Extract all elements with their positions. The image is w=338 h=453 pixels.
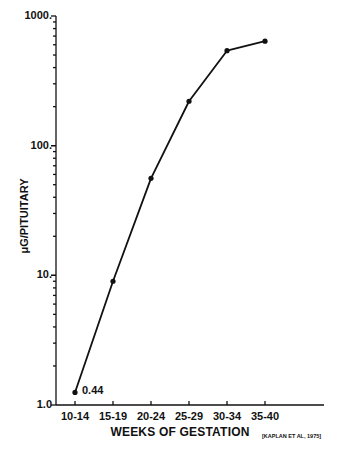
- x-tick-label-35-40: 35-40: [245, 410, 285, 422]
- x-tick-label-25-29: 25-29: [169, 410, 209, 422]
- y-tick-label-100: 100.: [12, 139, 52, 151]
- x-tick-label-30-34: 30-34: [207, 410, 247, 422]
- axes: [51, 16, 324, 405]
- x-tick-label-10-14: 10-14: [55, 410, 95, 422]
- chart-canvas: [0, 0, 338, 453]
- data-line: [75, 41, 265, 392]
- y-tick-label-10: 10.: [12, 268, 52, 280]
- point-annotation: 0.44: [82, 384, 103, 396]
- x-tick-label-15-19: 15-19: [93, 410, 133, 422]
- x-axis-title: WEEKS OF GESTATION: [100, 425, 260, 439]
- y-axis-title: μG/PITUITARY: [18, 166, 30, 266]
- citation: [KAPLAN ET AL, 1975]: [262, 433, 321, 439]
- data-points: [72, 39, 267, 396]
- y-tick-label-1000: 1000.: [12, 9, 52, 21]
- x-tick-label-20-24: 20-24: [131, 410, 171, 422]
- y-tick-label-1: 1.0: [12, 398, 52, 410]
